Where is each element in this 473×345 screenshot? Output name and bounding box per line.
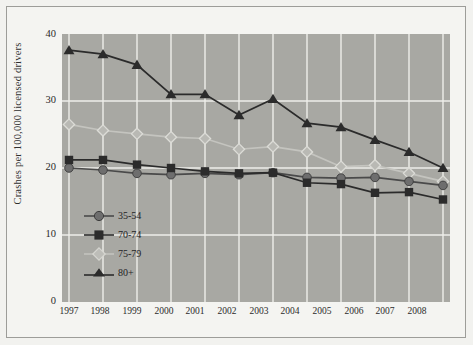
legend-label-70-74: 70-74 [116,229,141,240]
data-point-square [235,169,243,177]
plot-panel: 35-54 70-74 75-79 80+ [62,34,450,302]
data-point-circle [133,169,142,178]
data-point-diamond [131,128,142,139]
legend-item-75-79: 75-79 [82,244,168,263]
data-point-triangle [268,94,279,103]
data-point-diamond [97,125,108,136]
legend-item-35-54: 35-54 [82,206,168,225]
legend-item-70-74: 70-74 [82,225,168,244]
data-point-circle [65,164,74,173]
chart-legend: 35-54 70-74 75-79 80+ [82,206,168,282]
data-point-diamond [267,141,278,152]
data-point-diamond [233,144,244,155]
data-point-triangle [302,118,313,127]
legend-label-35-54: 35-54 [116,210,141,221]
data-point-square [439,195,447,203]
data-point-square [167,164,175,172]
chart-figure: Crashes per 100,000 licensed drivers 40 … [0,0,473,345]
data-point-circle [99,166,108,175]
y-axis-title: Crashes per 100,000 licensed drivers [12,0,23,258]
data-point-square [65,156,73,164]
data-point-triangle [64,45,75,54]
data-point-diamond [199,133,210,144]
series-layer [63,45,448,204]
data-point-diamond [63,119,74,130]
data-point-triangle [234,110,245,119]
data-point-circle [405,177,414,186]
square-marker-icon [82,227,116,243]
triangle-marker-icon [82,265,116,281]
data-point-square [269,168,277,176]
data-point-diamond [369,160,380,171]
series-line [69,168,443,185]
data-point-circle [371,173,380,182]
series-line [69,160,443,200]
data-point-circle [439,181,448,190]
data-point-square [99,156,107,164]
data-point-square [371,189,379,197]
data-point-diamond [165,132,176,143]
legend-label-80plus: 80+ [116,267,134,278]
data-point-square [337,180,345,188]
diamond-marker-icon [82,246,116,262]
data-point-square [201,167,209,175]
data-point-square [303,179,311,187]
circle-marker-icon [82,208,116,224]
series-line [69,50,443,168]
series-80plus [64,45,449,172]
legend-item-80plus: 80+ [82,263,168,282]
data-point-square [133,160,141,168]
series-75-79 [63,119,448,187]
data-point-square [405,188,413,196]
legend-label-75-79: 75-79 [116,248,141,259]
data-point-diamond [301,146,312,157]
data-point-diamond [335,161,346,172]
